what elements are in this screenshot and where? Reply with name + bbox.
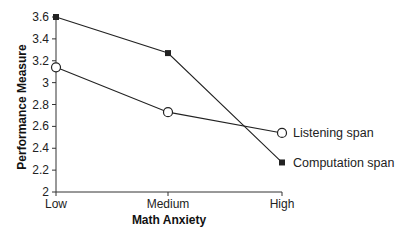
y-tick-label: 3.6 (32, 10, 49, 24)
y-tick-label: 3.2 (32, 54, 49, 68)
series-layer (52, 14, 287, 165)
square-marker (53, 14, 59, 20)
y-tick-label: 2.8 (32, 98, 49, 112)
x-tick-label: Low (45, 197, 67, 211)
y-tick-label: 2.2 (32, 163, 49, 177)
x-tick-label: Medium (147, 197, 190, 211)
circle-marker (164, 108, 173, 117)
y-tick-label: 3 (42, 76, 49, 90)
x-tick-label: High (270, 197, 295, 211)
legend-label: Computation span (293, 156, 395, 170)
y-axis-title: Performance Measure (15, 44, 29, 170)
y-axis: 22.22.42.62.833.23.43.6 (32, 10, 56, 199)
legend-label: Listening span (293, 126, 374, 140)
circle-marker (278, 128, 287, 137)
series-line (56, 67, 282, 133)
circle-marker (52, 63, 61, 72)
legend: Listening spanComputation span (293, 126, 395, 170)
y-tick-label: 2.6 (32, 119, 49, 133)
square-marker (165, 50, 171, 56)
line-chart: 22.22.42.62.833.23.43.6 LowMediumHigh Li… (0, 0, 402, 239)
x-axis-title: Math Anxiety (132, 213, 207, 227)
series-line (56, 17, 282, 162)
square-marker (279, 159, 285, 165)
x-axis: LowMediumHigh (45, 192, 294, 211)
series-computation-span (53, 14, 285, 165)
y-tick-label: 3.4 (32, 32, 49, 46)
series-listening-span (52, 63, 287, 138)
y-tick-label: 2.4 (32, 141, 49, 155)
